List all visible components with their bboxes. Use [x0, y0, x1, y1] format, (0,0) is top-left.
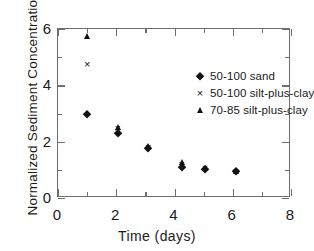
marker-diamond [196, 72, 204, 80]
y-tick-major [58, 85, 65, 86]
x-tick-top-minor [204, 29, 205, 33]
data-point-s2-p3 [179, 159, 185, 165]
data-point-s0-p3 [178, 163, 186, 171]
data-point-s2-p0 [84, 33, 90, 39]
x-axis-title: Time (days) [0, 228, 314, 244]
x-tick-label: 6 [228, 207, 236, 222]
y-tick-right-minor [285, 57, 289, 58]
legend-marker-triangle [190, 101, 210, 118]
x-tick-top-minor [87, 29, 88, 33]
y-axis-title: Normalized Sediment Concentrations [25, 16, 40, 216]
data-point-s2-p1 [115, 124, 121, 130]
y-tick-minor [58, 114, 62, 115]
x-tick-top-major [175, 29, 176, 36]
data-point-s1-p3 [178, 160, 186, 168]
x-tick-top-minor [145, 29, 146, 33]
x-tick-minor [145, 192, 146, 196]
marker-cross [196, 89, 204, 97]
x-tick-minor [87, 192, 88, 196]
x-tick-top-major [291, 29, 292, 36]
data-point-s0-p0 [83, 110, 91, 118]
x-tick-major [233, 189, 234, 196]
chart-figure: 50-100 sand50-100 silt-plus-clay70-85 si… [0, 0, 314, 251]
x-tick-label: 2 [111, 207, 119, 222]
legend-entry-1: 50-100 silt-plus-clay [190, 84, 314, 101]
y-tick-major [58, 198, 65, 199]
x-tick-major [116, 189, 117, 196]
y-tick-right-major [282, 142, 289, 143]
x-tick-top-minor [262, 29, 263, 33]
y-tick-minor [58, 57, 62, 58]
y-tick-right-major [282, 198, 289, 199]
plot-area: 50-100 sand50-100 silt-plus-clay70-85 si… [57, 28, 290, 197]
data-point-s1-p0 [83, 60, 91, 68]
data-point-s0-p2 [144, 144, 152, 152]
x-tick-label: 4 [169, 207, 177, 222]
data-point-s2-p5 [233, 168, 239, 174]
legend-entry-0: 50-100 sand [190, 67, 314, 84]
legend-marker-diamond [190, 67, 210, 84]
legend-label: 50-100 silt-plus-clay [210, 87, 314, 99]
data-point-s1-p5 [232, 167, 240, 175]
chart-legend: 50-100 sand50-100 silt-plus-clay70-85 si… [190, 67, 314, 118]
x-tick-minor [204, 192, 205, 196]
data-point-s2-p2 [145, 143, 151, 149]
legend-label: 50-100 sand [210, 70, 275, 82]
legend-marker-cross [190, 84, 210, 101]
y-tick-minor [58, 170, 62, 171]
marker-triangle [197, 107, 203, 113]
legend-entry-2: 70-85 silt-plus-clay [190, 101, 314, 118]
x-tick-major [58, 189, 59, 196]
data-point-s0-p4 [201, 165, 209, 173]
data-point-s1-p2 [144, 143, 152, 151]
data-point-s1-p4 [201, 164, 209, 172]
data-point-s0-p5 [232, 167, 240, 175]
x-tick-major [291, 189, 292, 196]
data-point-s0-p1 [114, 129, 122, 137]
x-tick-top-major [116, 29, 117, 36]
data-point-s1-p1 [114, 124, 122, 132]
x-tick-minor [262, 192, 263, 196]
y-tick-major [58, 142, 65, 143]
y-tick-major [58, 29, 65, 30]
legend-label: 70-85 silt-plus-clay [210, 104, 308, 116]
x-tick-label: 8 [286, 207, 294, 222]
y-tick-right-major [282, 29, 289, 30]
x-tick-top-major [233, 29, 234, 36]
y-tick-right-minor [285, 170, 289, 171]
x-tick-label: 0 [53, 207, 61, 222]
x-tick-major [175, 189, 176, 196]
data-point-s2-p4 [202, 165, 208, 171]
